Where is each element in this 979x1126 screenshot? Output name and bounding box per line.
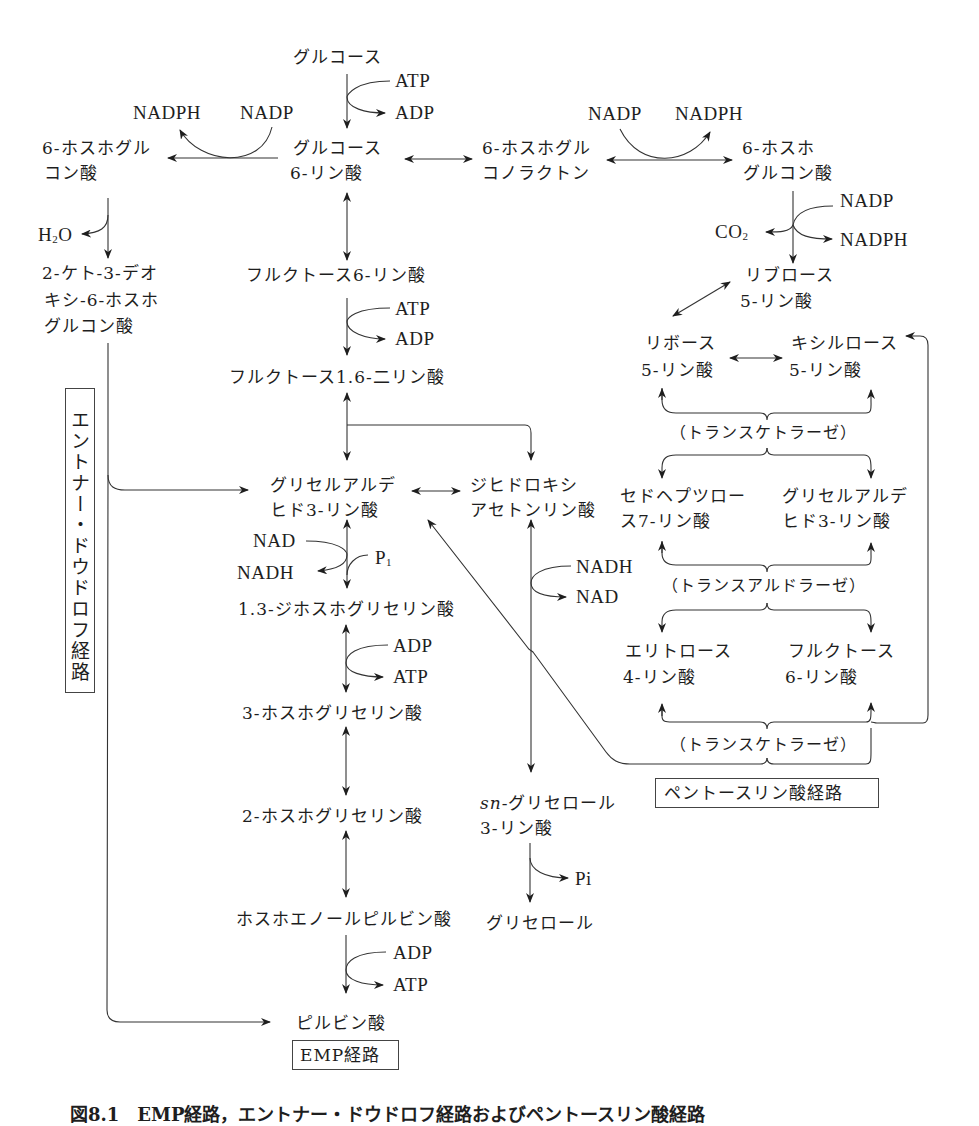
- gap-line2: ヒド3-リン酸: [270, 497, 379, 523]
- co2-subscript: 2: [742, 230, 748, 242]
- co2-cofactor: CO2: [715, 219, 748, 249]
- phosphogluconate-right-line1: 6-ホスホ: [742, 135, 815, 161]
- glycerol3p-line1: sn-グリセロール: [480, 790, 616, 816]
- bpg-label: 1.3-ジホスホグリセリン酸: [238, 596, 455, 622]
- adp-cofactor-2: ADP: [395, 326, 435, 352]
- pentose-phosphate-pathway-label: ペントースリン酸経路: [664, 780, 843, 806]
- sedoheptulose7p-line2: ス7-リン酸: [620, 508, 711, 534]
- glucose-label: グルコース: [293, 44, 382, 70]
- h2o-o: O: [58, 224, 72, 245]
- phosphate-p: P: [375, 547, 386, 568]
- adp-cofactor-3: ADP: [393, 633, 433, 659]
- sn-prefix: sn: [480, 793, 502, 813]
- h2o-h: H: [38, 224, 52, 245]
- nad-cofactor-1: NAD: [253, 528, 296, 554]
- gap-pp-line2: ヒド3-リン酸: [782, 508, 891, 534]
- nadph-cofactor-right: NADPH: [675, 101, 743, 127]
- phosphogluconate-right-line2: グルコン酸: [743, 160, 833, 186]
- adp-cofactor-4: ADP: [393, 940, 433, 966]
- dhap-line2: アセトンリン酸: [470, 497, 596, 523]
- fbp-label: フルクトース1.6-二リン酸: [229, 364, 445, 390]
- ribulose5p-line2: 5-リン酸: [740, 288, 813, 314]
- gluconolactone-line2: コノラクトン: [482, 160, 590, 186]
- emp-pathway-label: EMP経路: [300, 1042, 380, 1068]
- co2-text: CO: [715, 221, 742, 242]
- nadp-cofactor-left: NADP: [240, 100, 294, 126]
- pi-cofactor-2: Pi: [575, 866, 592, 892]
- kdpg-line2: キシ-6-ホスホ: [44, 287, 159, 313]
- phosphogluconate-left-line2: コン酸: [44, 160, 98, 186]
- nadh-cofactor-2: NADH: [576, 554, 633, 580]
- nadph-cofactor-left: NADPH: [133, 100, 201, 126]
- adp-cofactor: ADP: [395, 100, 435, 126]
- atp-cofactor-3: ATP: [393, 664, 428, 690]
- fructose6p-pp-line2: 6-リン酸: [785, 664, 858, 690]
- transaldolase-label: （トランスアルドラーゼ）: [662, 573, 866, 599]
- 3pg-label: 3-ホスホグリセリン酸: [242, 700, 423, 726]
- glycerol3p-line2: 3-リン酸: [480, 815, 553, 841]
- ribose5p-line2: 5-リン酸: [641, 357, 714, 383]
- phosphogluconate-left-line1: 6-ホスホグル: [42, 135, 151, 161]
- transketolase-label-2: （トランスケトラーゼ）: [670, 732, 857, 758]
- 2pg-label: 2-ホスホグリセリン酸: [242, 803, 423, 829]
- g6p-label-line1: グルコース: [293, 135, 382, 161]
- glycerol3p-rest: -グリセロール: [502, 793, 617, 813]
- phosphate-subscript: 1: [386, 556, 392, 568]
- erythrose4p-line2: 4-リン酸: [623, 664, 696, 690]
- gluconolactone-line1: 6-ホスホグル: [482, 135, 591, 161]
- nadp-cofactor-decarb: NADP: [840, 188, 894, 214]
- pentose-phosphate-pathway-box: ペントースリン酸経路: [655, 778, 879, 808]
- nadph-cofactor-decarb: NADPH: [840, 227, 908, 253]
- xylulose5p-line2: 5-リン酸: [789, 357, 862, 383]
- atp-cofactor-4: ATP: [393, 972, 428, 998]
- emp-pathway-box: EMP経路: [292, 1040, 399, 1070]
- glycerol-label: グリセロール: [486, 910, 594, 936]
- nad-cofactor-2: NAD: [576, 584, 619, 610]
- figure-caption: 図8.1 EMP経路，エントナー・ドウドロフ経路およびペントースリン酸経路: [70, 1100, 706, 1126]
- atp-cofactor-2: ATP: [395, 296, 430, 322]
- ribulose5p-line1: リブロース: [745, 262, 834, 288]
- sedoheptulose7p-line1: セドヘプツロー: [620, 483, 746, 509]
- erythrose4p-line1: エリトロース: [625, 638, 732, 664]
- atp-cofactor: ATP: [395, 68, 430, 94]
- nadh-cofactor-1: NADH: [237, 560, 294, 586]
- transketolase-label-1: （トランスケトラーゼ）: [670, 420, 857, 446]
- h2o-cofactor: H2O: [38, 222, 72, 252]
- xylulose5p-line1: キシルロース: [791, 330, 898, 356]
- entner-doudoroff-pathway-box: エントナー・ドウドロフ経路: [65, 388, 95, 693]
- nadp-cofactor-right: NADP: [588, 101, 642, 127]
- gap-pp-line1: グリセルアルデ: [782, 483, 908, 509]
- g6p-label-line2: 6-リン酸: [290, 160, 363, 186]
- ribose5p-line1: リボース: [645, 330, 716, 356]
- fructose6p-pp-line1: フルクトース: [788, 638, 895, 664]
- pyruvate-label: ピルビン酸: [296, 1010, 386, 1036]
- f6p-label: フルクトース6-リン酸: [246, 262, 426, 288]
- phosphate-cofactor-1: P1: [375, 545, 392, 575]
- kdpg-line3: グルコン酸: [44, 313, 134, 339]
- pep-label: ホスホエノールピルビン酸: [236, 906, 452, 932]
- kdpg-line1: 2-ケト-3-デオ: [42, 260, 158, 286]
- dhap-line1: ジヒドロキシ: [470, 472, 578, 498]
- gap-line1: グリセルアルデ: [270, 472, 396, 498]
